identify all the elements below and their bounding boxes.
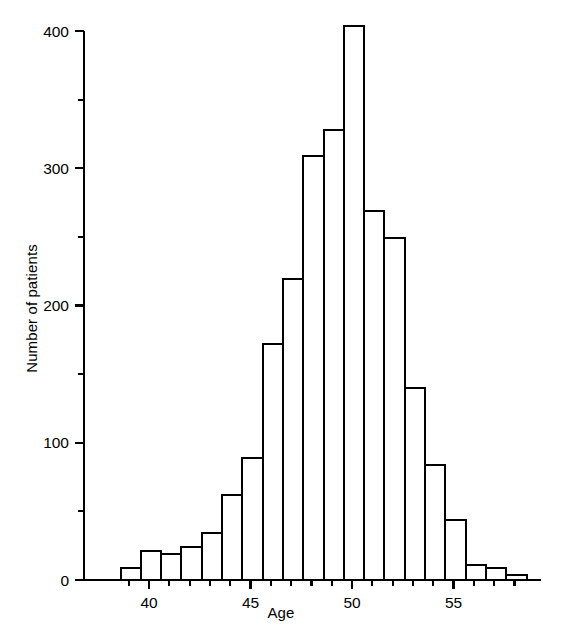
histogram-bar <box>283 279 303 580</box>
histogram-bar <box>202 533 222 580</box>
histogram-bar <box>486 568 506 580</box>
y-tick-label: 200 <box>43 297 69 314</box>
x-axis-label: Age <box>0 604 562 621</box>
y-axis-label: Number of patients <box>23 209 40 409</box>
histogram-bar <box>242 458 262 580</box>
histogram-figure: 0100200300400 40455055 Number of patient… <box>0 0 562 636</box>
histogram-bar <box>384 238 404 580</box>
histogram-bars <box>121 26 527 580</box>
histogram-bar <box>181 547 201 580</box>
histogram-bar <box>445 520 465 580</box>
y-axis: 0100200300400 <box>43 23 84 589</box>
histogram-bar <box>161 554 181 580</box>
histogram-bar <box>324 130 344 580</box>
y-tick-label: 100 <box>43 434 69 451</box>
y-tick-label: 300 <box>43 160 69 177</box>
chart-canvas: 0100200300400 40455055 <box>0 0 562 636</box>
histogram-bar <box>263 344 283 580</box>
histogram-bar <box>506 575 526 580</box>
y-tick-label: 0 <box>60 572 69 589</box>
histogram-bar <box>405 388 425 580</box>
histogram-bar <box>121 568 141 580</box>
histogram-bar <box>141 551 161 580</box>
histogram-bar <box>466 565 486 580</box>
y-tick-label: 400 <box>43 23 69 40</box>
histogram-bar <box>222 495 242 580</box>
histogram-bar <box>425 465 445 580</box>
histogram-bar <box>364 211 384 580</box>
histogram-bar <box>303 156 323 580</box>
histogram-bar <box>344 26 364 580</box>
